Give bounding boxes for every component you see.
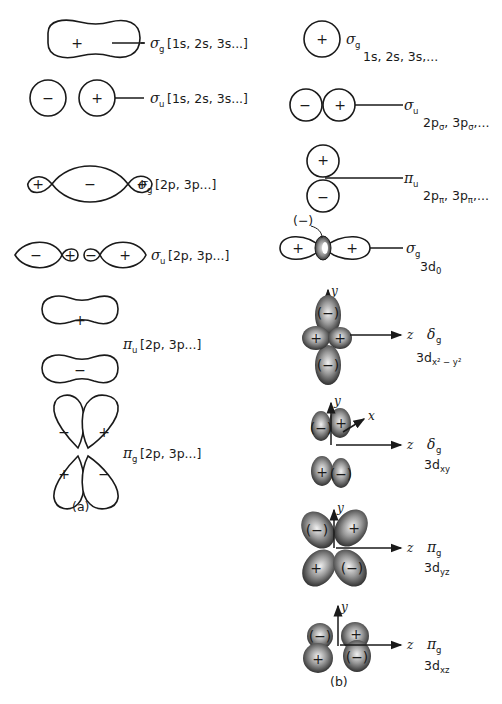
pa-pi-g: − + + − π g [2p, 3p...] [54, 395, 202, 509]
svg-text:g: g [436, 335, 441, 345]
svg-text:+: + [335, 415, 347, 431]
svg-text:[2p, 3p...]: [2p, 3p...] [140, 446, 201, 461]
svg-text:+: + [312, 651, 324, 667]
svg-text:−: − [299, 97, 311, 113]
panel-a-caption: (a) [72, 499, 89, 514]
svg-text:2pπ, 3pπ,...: 2pπ, 3pπ,... [423, 188, 489, 205]
svg-text:g: g [436, 445, 441, 455]
svg-text:y: y [333, 394, 341, 408]
svg-text:g: g [436, 548, 441, 558]
pa-sigma-g-s: + σ g [1s, 2s, 3s...] [48, 20, 248, 57]
svg-text:−: − [74, 362, 86, 378]
svg-text:−: − [85, 247, 97, 263]
svg-text:g: g [355, 40, 360, 50]
svg-text:+: + [316, 464, 328, 480]
svg-text:y: y [336, 501, 344, 515]
svg-text:+: + [32, 176, 44, 192]
svg-text:+: + [91, 90, 103, 106]
svg-text:+: + [334, 97, 346, 113]
svg-text:g: g [147, 185, 152, 195]
svg-text:u: u [160, 256, 165, 266]
svg-text:z: z [406, 541, 414, 555]
svg-text:+: + [74, 312, 86, 328]
svg-text:+: + [346, 240, 358, 256]
svg-text:+: + [310, 330, 322, 346]
svg-text:−: − [58, 424, 70, 440]
svg-text:3dxy: 3dxy [424, 457, 450, 474]
svg-text:(−): (−) [330, 466, 353, 482]
svg-text:x: x [368, 409, 375, 423]
svg-text:+: + [64, 247, 76, 263]
pb-sigma-g-3d0: (−) + + σ g 3d0 [280, 213, 441, 276]
svg-text:(−): (−) [293, 213, 313, 228]
svg-text:+: + [292, 240, 304, 256]
svg-text:−: − [98, 466, 110, 482]
pb-pi-g-3dyz: y (−) + + (−) z π g 3dyz [294, 501, 450, 593]
pa-sigma-u-p: − + − + σ u [2p, 3p...] [15, 242, 229, 268]
svg-text:z: z [406, 638, 414, 652]
svg-text:+: + [334, 330, 346, 346]
svg-text:(−): (−) [346, 649, 369, 665]
svg-text:3d0: 3d0 [420, 259, 441, 276]
svg-text:[1s, 2s, 3s...]: [1s, 2s, 3s...] [167, 36, 248, 51]
svg-text:u: u [413, 179, 418, 189]
svg-text:u: u [413, 106, 418, 116]
svg-text:δ: δ [427, 436, 435, 452]
pa-sigma-u-s: − + σ u [1s, 2s, 3s...] [30, 80, 248, 116]
svg-text:3dyz: 3dyz [424, 560, 450, 577]
svg-text:−: − [30, 247, 42, 263]
svg-text:−: − [317, 189, 329, 205]
svg-text:(−): (−) [317, 357, 340, 373]
svg-text:u: u [159, 99, 164, 109]
svg-text:y: y [340, 600, 348, 614]
svg-text:+: + [58, 466, 70, 482]
pa-pi-u: + − π u [2p, 3p...] [42, 296, 201, 382]
svg-text:(−): (−) [341, 560, 364, 576]
svg-text:3dx² − y²: 3dx² − y² [416, 350, 461, 367]
svg-text:+: + [119, 247, 131, 263]
svg-text:δ: δ [427, 326, 435, 342]
svg-text:+: + [348, 520, 360, 536]
svg-text:g: g [415, 249, 420, 259]
svg-text:g: g [436, 645, 441, 655]
pa-sigma-g-p: + − + σ [28, 166, 152, 202]
svg-text:(−): (−) [317, 305, 340, 321]
svg-text:+: + [71, 35, 83, 51]
pb-pi-u: + − π u 2pπ, 3pπ,... [307, 145, 489, 212]
pb-sigma-g-s: + σ g 1s, 2s, 3s,... [304, 21, 438, 64]
pb-sigma-u-p: − + σ u 2pσ, 3pσ,... [290, 89, 489, 132]
svg-text:z: z [406, 438, 414, 452]
svg-text:[2p, 3p...]: [2p, 3p...] [168, 248, 229, 263]
svg-text:−: − [42, 90, 54, 106]
svg-text:z: z [406, 328, 414, 342]
svg-text:+: + [98, 424, 110, 440]
svg-text:1s, 2s, 3s,...: 1s, 2s, 3s,... [363, 49, 438, 64]
svg-text:[2p, 3p...]: [2p, 3p...] [140, 337, 201, 352]
svg-text:3dxz: 3dxz [424, 658, 450, 675]
svg-text:[2p, 3p...]: [2p, 3p...] [155, 177, 216, 192]
svg-text:+: + [317, 152, 329, 168]
svg-text:+: + [316, 31, 328, 47]
svg-text:g: g [132, 454, 137, 464]
pb-pi-g-3dxz: y (−) + + (−) z π g 3dxz [303, 600, 450, 675]
molecular-orbital-diagram: + σ g [1s, 2s, 3s...] − + σ u [1s, 2s, 3… [0, 0, 502, 704]
svg-text:+: + [350, 626, 362, 642]
svg-text:g: g [159, 44, 164, 54]
svg-text:(−): (−) [309, 628, 332, 644]
svg-text:(−): (−) [306, 522, 329, 538]
panel-b-caption: (b) [330, 674, 348, 689]
svg-text:2pσ, 3pσ,...: 2pσ, 3pσ,... [423, 115, 489, 132]
svg-text:(−): (−) [310, 420, 333, 436]
svg-text:+: + [310, 560, 322, 576]
svg-text:u: u [132, 345, 137, 355]
pb-delta-g-3dx2y2: y (−) + + (−) z δ g 3dx² − y² [302, 284, 461, 385]
pb-delta-g-3dxy: y x (−) + + (−) z δ g 3dxy [310, 394, 450, 488]
svg-text:[1s, 2s, 3s...]: [1s, 2s, 3s...] [167, 91, 248, 106]
svg-text:−: − [84, 176, 96, 192]
